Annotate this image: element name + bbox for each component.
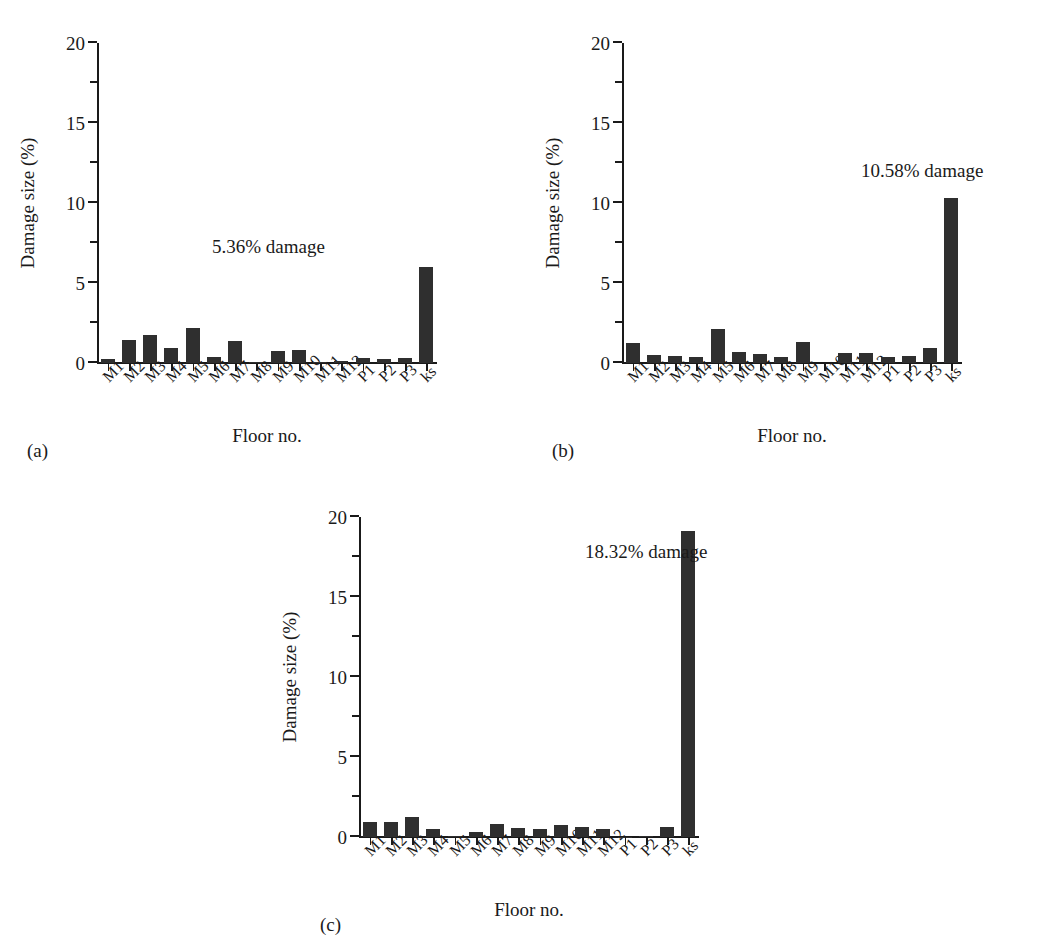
bars-a: M1M2M3M4M5M6M7M8M9M10M11M12P1P2P3ks	[97, 43, 437, 363]
y-tick-minor	[352, 715, 359, 717]
figure-damage-size-charts: Damage size (%) 05101520 M1M2M3M4M5M6M7M…	[0, 0, 1050, 948]
y-tick-label: 15	[328, 588, 347, 607]
panel-tag-c: (c)	[320, 914, 341, 936]
y-tick-minor	[352, 635, 359, 637]
bar-P3	[923, 348, 937, 363]
panel-tag-a: (a)	[27, 440, 48, 462]
bars-b: M1M2M3M4M5M6M7M8M9M10M11M12P1P2P3ks	[622, 43, 962, 363]
y-tick-minor	[615, 161, 622, 163]
y-tick-label: 5	[76, 274, 86, 293]
y-tick-minor	[90, 241, 97, 243]
y-tick-major	[88, 121, 97, 123]
y-tick-major	[613, 281, 622, 283]
annotation-b: 10.58% damage	[861, 160, 983, 182]
plot-area-c: 05101520 M1M2M3M4M5M6M7M8M9M10M11M12P1P2…	[359, 517, 699, 837]
x-tick-label-ks: ks	[942, 363, 965, 386]
chart-panel-a: Damage size (%) 05101520 M1M2M3M4M5M6M7M…	[0, 0, 525, 474]
y-tick-major	[350, 675, 359, 677]
y-tick-label: 5	[338, 748, 348, 767]
bar-ks	[681, 531, 695, 837]
y-tick-minor	[615, 81, 622, 83]
y-tick-label: 10	[328, 668, 347, 687]
y-tick-major	[350, 515, 359, 517]
y-tick-major	[350, 595, 359, 597]
y-tick-major	[613, 121, 622, 123]
x-tick-label-ks: ks	[417, 363, 440, 386]
bar-ks	[419, 267, 433, 363]
plot-area-b: 05101520 M1M2M3M4M5M6M7M8M9M10M11M12P1P2…	[622, 43, 962, 363]
y-tick-label: 5	[601, 274, 611, 293]
plot-area-a: 05101520 M1M2M3M4M5M6M7M8M9M10M11M12P1P2…	[97, 43, 437, 363]
y-tick-label: 10	[66, 194, 85, 213]
y-axis-label-a: Damage size (%)	[17, 138, 39, 269]
y-tick-label: 15	[66, 114, 85, 133]
bar-ks	[944, 198, 958, 363]
y-tick-label: 0	[601, 354, 611, 373]
y-axis-label-c: Damage size (%)	[279, 612, 301, 743]
y-tick-major	[613, 201, 622, 203]
panel-tag-b: (b)	[552, 440, 574, 462]
y-tick-label: 10	[591, 194, 610, 213]
y-tick-minor	[352, 795, 359, 797]
y-tick-minor	[352, 555, 359, 557]
chart-panel-b: Damage size (%) 05101520 M1M2M3M4M5M6M7M…	[525, 0, 1050, 474]
annotation-a: 5.36% damage	[212, 236, 325, 258]
y-tick-major	[350, 755, 359, 757]
y-tick-minor	[90, 321, 97, 323]
y-tick-label: 0	[338, 828, 348, 847]
bar-P3	[660, 827, 674, 837]
y-tick-major	[88, 281, 97, 283]
y-tick-minor	[90, 81, 97, 83]
y-tick-major	[350, 835, 359, 837]
chart-panel-c: Damage size (%) 05101520 M1M2M3M4M5M6M7M…	[262, 474, 787, 948]
x-axis-label-b: Floor no.	[622, 425, 962, 447]
y-tick-major	[613, 41, 622, 43]
bars-c: M1M2M3M4M5M6M7M8M9M10M11M12P1P2P3ks	[359, 517, 699, 837]
x-axis-label-c: Floor no.	[359, 899, 699, 921]
y-tick-major	[613, 361, 622, 363]
y-tick-label: 20	[66, 34, 85, 53]
annotation-c: 18.32% damage	[585, 541, 707, 563]
y-tick-label: 0	[76, 354, 86, 373]
y-tick-minor	[615, 321, 622, 323]
y-axis-label-b: Damage size (%)	[542, 138, 564, 269]
y-tick-label: 15	[591, 114, 610, 133]
x-tick-label-ks: ks	[679, 837, 702, 860]
x-axis-label-a: Floor no.	[97, 425, 437, 447]
y-tick-minor	[615, 241, 622, 243]
y-tick-label: 20	[328, 508, 347, 527]
y-tick-major	[88, 41, 97, 43]
y-tick-major	[88, 201, 97, 203]
y-tick-minor	[90, 161, 97, 163]
y-tick-major	[88, 361, 97, 363]
y-tick-label: 20	[591, 34, 610, 53]
